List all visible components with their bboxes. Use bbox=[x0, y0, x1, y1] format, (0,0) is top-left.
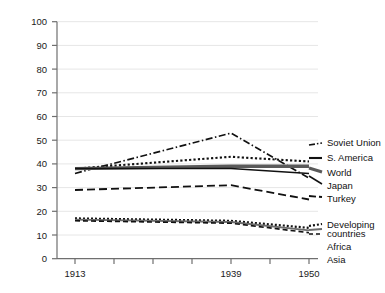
legend-item-japan[interactable]: Japan bbox=[327, 180, 353, 191]
y-tick-label: 50 bbox=[36, 135, 47, 146]
legend-item-countries[interactable]: countries bbox=[327, 228, 366, 239]
y-tick-label: 10 bbox=[36, 230, 47, 241]
legend-stub-africa bbox=[309, 229, 322, 230]
y-tick-label: 40 bbox=[36, 158, 47, 169]
chart-container: 100 90 80 70 60 50 40 30 20 10 0 1913 19… bbox=[0, 0, 385, 293]
x-tick-label: 1939 bbox=[220, 268, 241, 279]
y-tick-label: 60 bbox=[36, 111, 47, 122]
y-tick-label: 30 bbox=[36, 182, 47, 193]
legend-item-turkey[interactable]: Turkey bbox=[327, 193, 356, 204]
y-tick-label: 20 bbox=[36, 206, 47, 217]
y-tick-label: 100 bbox=[31, 16, 47, 27]
x-tick-label: 1950 bbox=[298, 268, 319, 279]
x-tick-label: 1913 bbox=[64, 268, 85, 279]
y-tick-label: 0 bbox=[42, 253, 47, 264]
y-tick-label: 80 bbox=[36, 64, 47, 75]
legend-item-world[interactable]: World bbox=[327, 167, 352, 178]
legend-item-africa[interactable]: Africa bbox=[327, 241, 352, 252]
line-chart: 100 90 80 70 60 50 40 30 20 10 0 1913 19… bbox=[0, 0, 385, 293]
y-tick-label: 90 bbox=[36, 40, 47, 51]
legend-item-asia[interactable]: Asia bbox=[327, 254, 346, 265]
y-tick-label: 70 bbox=[36, 87, 47, 98]
legend-item-s-america[interactable]: S. America bbox=[327, 152, 374, 163]
legend-stub-turkey bbox=[309, 196, 322, 197]
legend-item-soviet-union[interactable]: Soviet Union bbox=[327, 137, 381, 148]
